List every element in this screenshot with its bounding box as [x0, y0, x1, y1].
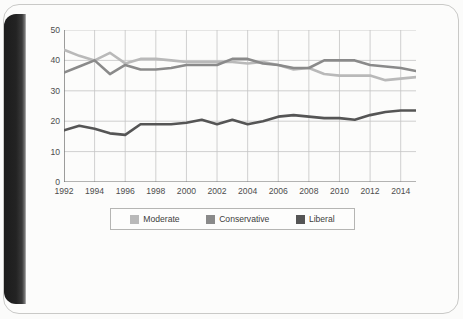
legend-swatch-icon — [130, 215, 139, 224]
series-line-conservative — [64, 59, 416, 74]
axis-lines — [64, 30, 416, 182]
x-tick-label: 2006 — [269, 186, 288, 196]
plot-area — [64, 30, 416, 182]
y-tick-label: 20 — [30, 116, 60, 126]
series-line-moderate — [64, 50, 416, 80]
y-axis-tick-labels: 01020304050 — [28, 30, 60, 182]
scanned-page-background: PERCENTAGE 01020304050 19921994199619982… — [0, 0, 463, 319]
legend-item[interactable]: Liberal — [296, 214, 335, 224]
chart-legend: ModerateConservativeLiberal — [110, 208, 355, 230]
x-tick-label: 2010 — [330, 186, 349, 196]
x-tick-label: 2008 — [299, 186, 318, 196]
x-tick-label: 2000 — [177, 186, 196, 196]
x-tick-label: 2002 — [207, 186, 226, 196]
legend-swatch-icon — [206, 215, 215, 224]
y-tick-label: 40 — [30, 55, 60, 65]
legend-item[interactable]: Moderate — [130, 214, 179, 224]
gridlines — [64, 30, 416, 182]
x-tick-label: 1996 — [116, 186, 135, 196]
x-tick-label: 1992 — [54, 186, 73, 196]
x-tick-label: 1998 — [146, 186, 165, 196]
x-tick-label: 2014 — [391, 186, 410, 196]
y-tick-label: 30 — [30, 86, 60, 96]
y-tick-label: 10 — [30, 147, 60, 157]
plot-svg — [64, 30, 416, 182]
line-chart: PERCENTAGE 01020304050 19921994199619982… — [26, 28, 434, 233]
legend-item[interactable]: Conservative — [206, 214, 269, 224]
book-spine-shadow — [4, 14, 26, 304]
x-tick-label: 2012 — [361, 186, 380, 196]
data-series-layer — [64, 50, 416, 135]
x-tick-label: 1994 — [85, 186, 104, 196]
legend-label: Moderate — [143, 214, 179, 224]
legend-label: Conservative — [219, 214, 269, 224]
x-axis-tick-labels: 1992199419961998200020022004200620082010… — [64, 186, 416, 200]
x-tick-label: 2004 — [238, 186, 257, 196]
legend-label: Liberal — [309, 214, 335, 224]
series-line-liberal — [64, 111, 416, 135]
y-tick-label: 50 — [30, 25, 60, 35]
legend-swatch-icon — [296, 215, 305, 224]
figure-container: PERCENTAGE 01020304050 19921994199619982… — [26, 10, 455, 309]
